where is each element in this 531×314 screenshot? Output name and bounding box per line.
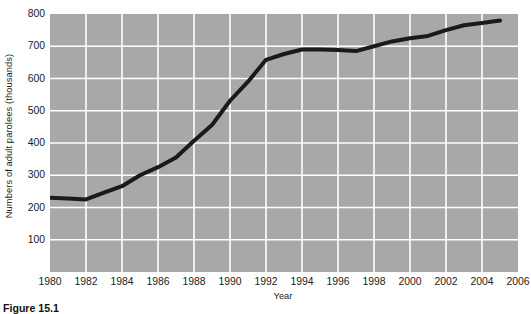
y-axis-tick-labels: 100200300400500600700800 [18, 0, 45, 314]
y-tick-label: 400 [18, 138, 45, 148]
y-tick-label: 500 [18, 106, 45, 116]
y-tick-label: 200 [18, 203, 45, 213]
y-tick-label: 600 [18, 74, 45, 84]
chart-canvas [50, 14, 518, 272]
y-tick-label: 100 [18, 235, 45, 245]
series-polyline [50, 20, 500, 199]
y-tick-label: 300 [18, 170, 45, 180]
x-tick-label: 2006 [497, 275, 531, 289]
x-axis-tick-labels: 1980198219841986198819901992199419961998… [0, 275, 531, 291]
y-axis-label: Numbers of adult parolees (thousands) [1, 0, 17, 272]
y-tick-label: 800 [18, 9, 45, 19]
data-line-adult-parolees [50, 20, 500, 199]
plot-area [50, 14, 518, 272]
y-tick-label: 700 [18, 41, 45, 51]
x-axis-label: Year [243, 290, 323, 302]
figure-caption: Figure 15.1 [3, 302, 59, 314]
figure-container: Numbers of adult parolees (thousands) 10… [0, 0, 531, 314]
